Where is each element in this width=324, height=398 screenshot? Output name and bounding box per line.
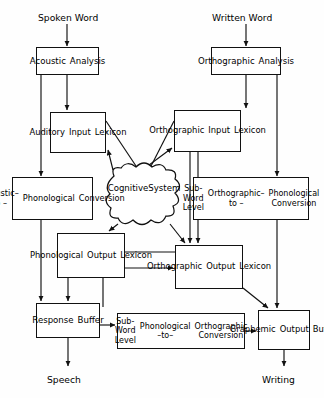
acoustic-to-phonological-conversion: Acoustic–to –PhonologicalConversion	[12, 177, 93, 220]
acoustic-analysis: AcousticAnalysis	[36, 47, 99, 75]
subword-orthographic-to-phonological-conversion: Sub-Word LevelOrthographic– to –Phonolog…	[193, 177, 309, 220]
terminal-written-word: Written Word	[212, 12, 272, 23]
auditory-input-lexicon: AuditoryInputLexicon	[50, 112, 106, 153]
terminal-speech: Speech	[47, 374, 81, 385]
terminal-spoken-word: Spoken Word	[38, 12, 98, 23]
subword-phonological-to-orthographic-conversion: Sub-Word LevelPhonological –to–Orthograp…	[117, 313, 245, 349]
graphemic-output-buffer: GraphemicOutputBuffer	[258, 310, 310, 350]
phonological-output-lexicon: PhonologicalOutputLexicon	[57, 233, 125, 278]
response-buffer: ResponseBuffer	[36, 303, 100, 338]
diagram-canvas: CognitiveSystem AcousticAnalysisOrthogra…	[0, 0, 324, 398]
orthographic-analysis: OrthographicAnalysis	[211, 47, 281, 75]
terminal-writing: Writing	[262, 374, 295, 385]
orthographic-output-lexicon: OrthographicOutputLexicon	[175, 245, 243, 289]
orthographic-input-lexicon: OrthographicInputLexicon	[174, 110, 241, 152]
